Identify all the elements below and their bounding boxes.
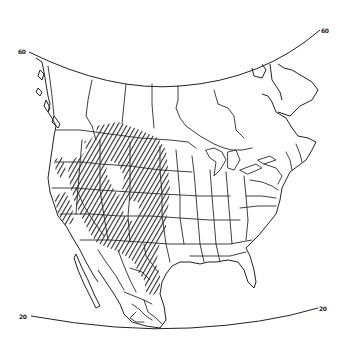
latitude-label-60-left: 60 [18, 48, 26, 55]
latitude-label-60-right: 60 [321, 27, 329, 34]
north-america-map [0, 0, 357, 349]
coastal-islands [36, 70, 60, 128]
latitude-label-20-left: 20 [19, 313, 27, 320]
latitude-20-line [31, 308, 318, 329]
latitude-label-20-right: 20 [319, 305, 327, 312]
latitude-60-line [29, 30, 320, 87]
